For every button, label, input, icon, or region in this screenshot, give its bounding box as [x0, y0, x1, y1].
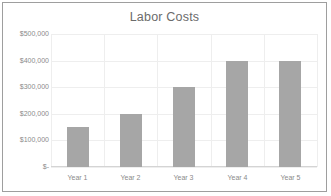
y-axis-tick-label: $500,000: [5, 30, 49, 38]
y-axis: $-$100,000$200,000$300,000$400,000$500,0…: [3, 3, 49, 196]
bar: [226, 61, 248, 167]
bar: [120, 114, 142, 167]
x-axis-tick-label: Year 4: [211, 173, 264, 182]
x-axis-tick-label: Year 5: [264, 173, 317, 182]
y-axis-tick-label: $100,000: [5, 136, 49, 144]
y-axis-tick-label: $-: [5, 163, 49, 171]
bar: [173, 87, 195, 167]
x-axis-tick-label: Year 2: [104, 173, 157, 182]
x-axis-tick-label: Year 1: [51, 173, 104, 182]
y-axis-tick-label: $200,000: [5, 110, 49, 118]
y-axis-tick-label: $300,000: [5, 83, 49, 91]
chart-container: Labor Costs $-$100,000$200,000$300,000$4…: [2, 2, 327, 192]
bar-series: [51, 34, 317, 167]
gridline-vertical: [317, 34, 318, 167]
x-axis-tick-label: Year 3: [157, 173, 210, 182]
gridline-horizontal: [51, 167, 317, 168]
bar: [67, 127, 89, 167]
bar: [279, 61, 301, 167]
chart-title: Labor Costs: [3, 10, 326, 24]
y-axis-tick-label: $400,000: [5, 57, 49, 65]
